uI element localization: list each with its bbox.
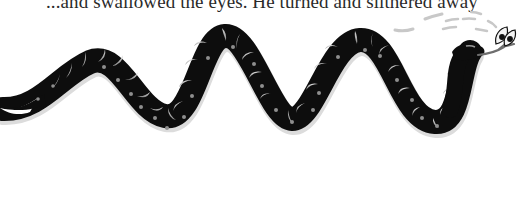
snake-neck	[450, 56, 462, 110]
eyes-icon	[496, 27, 516, 46]
snake-illustration	[0, 0, 523, 211]
storybook-page: ...and swallowed the eyes. He turned and…	[0, 0, 523, 211]
motion-streaks-icon	[395, 12, 496, 31]
snake-body	[3, 36, 470, 122]
